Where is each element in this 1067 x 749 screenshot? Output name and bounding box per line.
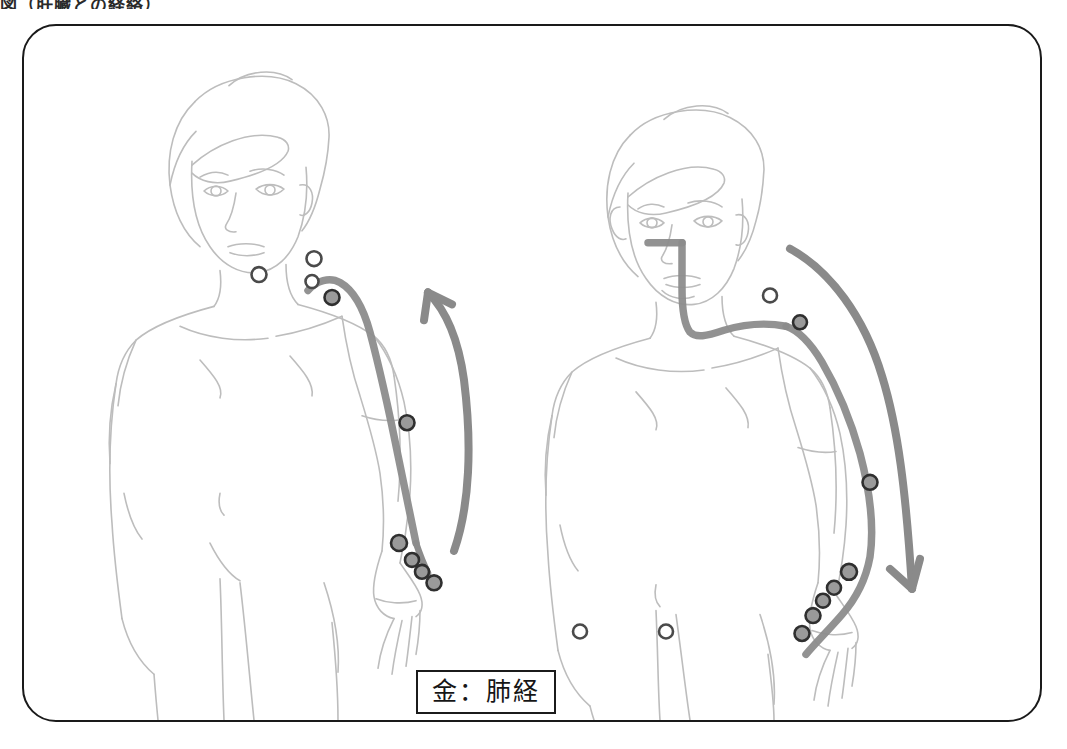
acupoint-hollow bbox=[307, 251, 322, 266]
acupoint bbox=[415, 565, 429, 579]
acupoint bbox=[827, 581, 841, 595]
acupoint-hollow bbox=[763, 288, 777, 302]
li-acupoints-hollow bbox=[573, 288, 777, 638]
lung-meridian-panel: 金：肺経 bbox=[24, 26, 534, 720]
acupoint-hollow bbox=[573, 625, 587, 639]
acupoint bbox=[863, 475, 878, 490]
acupoint bbox=[427, 575, 442, 590]
body-outline-right bbox=[545, 106, 858, 720]
body-outline-left bbox=[109, 72, 422, 720]
upward-flow-arrow bbox=[424, 292, 469, 551]
acupoint-hollow bbox=[659, 625, 673, 639]
acupoint bbox=[816, 594, 830, 608]
acupoint bbox=[405, 553, 419, 567]
large-intestine-figure-illustration bbox=[534, 26, 1044, 720]
acupoint bbox=[391, 535, 407, 551]
acupoint bbox=[806, 608, 821, 623]
acupoint bbox=[841, 564, 857, 580]
lung-figure-illustration bbox=[24, 26, 534, 720]
diagram-page: 図（肝臓との経絡） bbox=[0, 0, 1067, 749]
acupoint bbox=[400, 415, 415, 430]
figure-frame: 金：肺経 bbox=[22, 24, 1042, 722]
acupoint bbox=[793, 315, 807, 329]
top-caption-clipped: 図（肝臓との経絡） bbox=[0, 0, 420, 9]
acupoint-hollow bbox=[306, 275, 319, 288]
acupoint bbox=[795, 626, 810, 641]
downward-flow-arrow bbox=[790, 249, 920, 589]
acupoint-hollow bbox=[252, 267, 267, 282]
large-intestine-meridian-panel: 金：大腸経 bbox=[534, 26, 1044, 720]
acupoint bbox=[325, 290, 340, 305]
lung-meridian-label-text: 金：肺経 bbox=[432, 677, 540, 706]
